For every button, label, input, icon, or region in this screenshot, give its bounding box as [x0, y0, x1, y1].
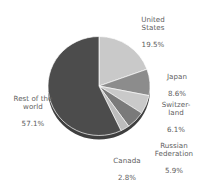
slice-label-name: Rest of the world	[4, 95, 62, 112]
slice-label-rest-of-the-world: Rest of the world 57.1%	[4, 86, 62, 138]
slice-label-russian-federation: Russian Federation 5.9%	[146, 133, 202, 181]
slice-label-value: 5.9%	[146, 167, 202, 176]
slice-label-value: 19.5%	[127, 41, 179, 50]
slice-label-canada: Canada 2.8%	[104, 148, 150, 181]
slice-label-value: 2.8%	[104, 174, 150, 181]
pie-chart: United States 19.5% Japan 8.6% Switzer- …	[0, 0, 206, 181]
slice-label-name: Russian Federation	[146, 142, 202, 159]
slice-label-name: United States	[127, 16, 179, 33]
slice-label-name: Switzer- land	[152, 101, 200, 118]
slice-label-name: Japan	[155, 73, 199, 82]
slice-label-name: Canada	[104, 157, 150, 166]
slice-label-value: 57.1%	[4, 120, 62, 129]
slice-label-united-states: United States 19.5%	[127, 7, 179, 59]
